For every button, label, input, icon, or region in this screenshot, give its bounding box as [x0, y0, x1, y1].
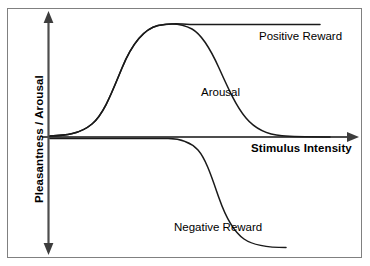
y-axis-arrow-down-icon — [44, 243, 54, 255]
y-axis-title: Pleasantness / Arousal — [34, 75, 46, 203]
x-axis-arrow-right-icon — [347, 132, 359, 142]
series-label-arousal: Arousal — [201, 87, 240, 99]
y-axis-arrow-up-icon — [44, 11, 54, 23]
series-label-positive-reward: Positive Reward — [259, 31, 342, 43]
series-label-negative-reward: Negative Reward — [174, 222, 262, 234]
x-axis-title: Stimulus Intensity — [251, 143, 352, 155]
figure-root: Pleasantness / Arousal Stimulus Intensit… — [0, 0, 370, 266]
